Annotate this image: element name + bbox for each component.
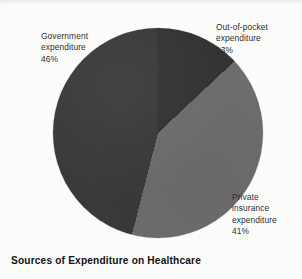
slice-label-government: Government expenditure 46% <box>41 31 133 65</box>
scan-artifact <box>0 0 302 5</box>
figure-caption: Sources of Expenditure on Healthcare <box>11 255 296 266</box>
figure-area: Government expenditure 46% Out-of-pocket… <box>8 6 302 246</box>
slice-label-private-insurance: Private insurance expenditure 41% <box>232 192 302 238</box>
slice-label-out-of-pocket: Out-of-pocket expenditure 13% <box>216 22 302 56</box>
page-background: Government expenditure 46% Out-of-pocket… <box>0 0 302 279</box>
